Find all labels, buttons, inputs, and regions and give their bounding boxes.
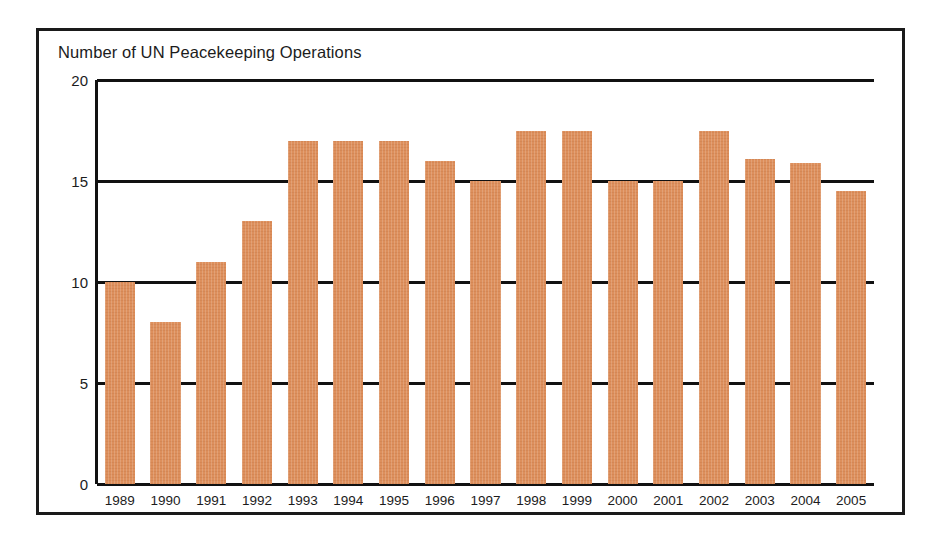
- bar-group-1998: 1998: [508, 80, 554, 484]
- bar-1993[interactable]: [288, 141, 318, 484]
- bar-group-2000: 2000: [600, 80, 646, 484]
- bar-group-1989: 1989: [97, 80, 143, 484]
- bar-group-1997: 1997: [463, 80, 509, 484]
- bar-group-2003: 2003: [737, 80, 783, 484]
- y-axis-tick-label: 10: [71, 274, 88, 291]
- bar-group-2004: 2004: [783, 80, 829, 484]
- bar-2001[interactable]: [653, 181, 683, 484]
- x-axis-tick-label: 1991: [196, 493, 226, 508]
- y-axis-tick-label: 15: [71, 173, 88, 190]
- bar-1994[interactable]: [333, 141, 363, 484]
- bar-group-1995: 1995: [371, 80, 417, 484]
- x-axis-tick-label: 1990: [151, 493, 181, 508]
- bar-group-1990: 1990: [143, 80, 189, 484]
- bar-group-2005: 2005: [828, 80, 874, 484]
- x-axis-tick-label: 2001: [653, 493, 683, 508]
- bar-series: 1989199019911992199319941995199619971998…: [97, 80, 874, 484]
- bar-group-1996: 1996: [417, 80, 463, 484]
- bar-1997[interactable]: [470, 181, 500, 484]
- y-axis-tick-label: 20: [71, 72, 88, 89]
- bar-1989[interactable]: [105, 282, 135, 484]
- bar-2004[interactable]: [790, 163, 820, 484]
- x-axis-tick-label: 1994: [333, 493, 363, 508]
- x-axis-tick-label: 1996: [425, 493, 455, 508]
- bar-group-1992: 1992: [234, 80, 280, 484]
- x-axis-tick-label: 1993: [288, 493, 318, 508]
- chart-frame: Number of UN Peacekeeping Operations 051…: [36, 28, 905, 515]
- bar-1999[interactable]: [562, 131, 592, 485]
- x-axis-tick-label: 1992: [242, 493, 272, 508]
- bar-2003[interactable]: [745, 159, 775, 484]
- x-axis-tick-label: 1989: [105, 493, 135, 508]
- bar-1996[interactable]: [425, 161, 455, 484]
- bar-1992[interactable]: [242, 221, 272, 484]
- x-axis-tick-label: 1998: [516, 493, 546, 508]
- bar-group-1999: 1999: [554, 80, 600, 484]
- x-axis-tick-label: 2004: [790, 493, 820, 508]
- bar-group-2002: 2002: [691, 80, 737, 484]
- bar-1995[interactable]: [379, 141, 409, 484]
- x-axis-tick-label: 1995: [379, 493, 409, 508]
- bar-group-1994: 1994: [326, 80, 372, 484]
- x-axis-tick-label: 2000: [608, 493, 638, 508]
- bar-1998[interactable]: [516, 131, 546, 485]
- bar-2002[interactable]: [699, 131, 729, 485]
- bar-1990[interactable]: [150, 322, 180, 484]
- bar-2005[interactable]: [836, 191, 866, 484]
- x-axis-tick-label: 1999: [562, 493, 592, 508]
- bar-2000[interactable]: [608, 181, 638, 484]
- y-axis-tick-label: 0: [80, 476, 88, 493]
- chart-title: Number of UN Peacekeeping Operations: [58, 43, 362, 62]
- x-axis-tick-label: 2005: [836, 493, 866, 508]
- y-axis-tick-label: 5: [80, 375, 88, 392]
- bar-group-2001: 2001: [645, 80, 691, 484]
- bar-group-1991: 1991: [188, 80, 234, 484]
- x-axis-tick-label: 2002: [699, 493, 729, 508]
- plot-area: 05101520 1989199019911992199319941995199…: [97, 80, 874, 484]
- bar-group-1993: 1993: [280, 80, 326, 484]
- x-axis-tick-label: 2003: [745, 493, 775, 508]
- bar-1991[interactable]: [196, 262, 226, 484]
- x-axis-tick-label: 1997: [470, 493, 500, 508]
